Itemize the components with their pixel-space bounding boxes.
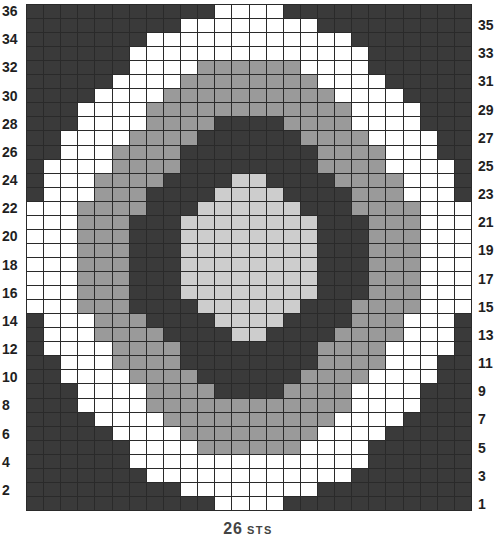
- stitch-cell: [130, 427, 146, 440]
- stitch-cell: [335, 244, 351, 257]
- stitch-cell: [352, 5, 368, 18]
- stitch-cell: [250, 19, 266, 32]
- stitch-cell: [78, 483, 94, 496]
- stitch-cell: [113, 455, 129, 468]
- stitch-cell: [318, 427, 334, 440]
- stitch-cell: [164, 131, 180, 144]
- row-label-6: 6: [2, 427, 24, 441]
- stitch-cell: [267, 117, 283, 130]
- stitch-cell: [78, 272, 94, 285]
- stitch-cell: [352, 356, 368, 369]
- stitch-cell: [386, 441, 402, 454]
- stitch-cell: [404, 244, 420, 257]
- stitch-cell: [250, 61, 266, 74]
- stitch-cell: [369, 413, 385, 426]
- stitch-cell: [61, 342, 77, 355]
- stitch-cell: [113, 75, 129, 88]
- stitch-cell: [44, 328, 60, 341]
- stitch-cell: [421, 427, 437, 440]
- stitch-cell: [318, 244, 334, 257]
- stitch-cell: [404, 117, 420, 130]
- stitch-cell: [44, 413, 60, 426]
- stitch-cell: [318, 469, 334, 482]
- stitch-cell: [27, 483, 43, 496]
- stitch-cell: [27, 342, 43, 355]
- stitch-cell: [455, 131, 471, 144]
- stitch-cell: [318, 314, 334, 327]
- stitch-cell: [130, 356, 146, 369]
- stitch-cell: [404, 188, 420, 201]
- stitch-cell: [147, 103, 163, 116]
- stitch-cell: [44, 272, 60, 285]
- stitch-cell: [421, 258, 437, 271]
- stitch-cell: [369, 497, 385, 510]
- stitch-cell: [267, 5, 283, 18]
- stitch-cell: [301, 356, 317, 369]
- stitch-cell: [250, 286, 266, 299]
- stitch-cell: [27, 174, 43, 187]
- stitch-cell: [181, 33, 197, 46]
- stitch-cell: [130, 174, 146, 187]
- stitch-cell: [352, 174, 368, 187]
- stitch-cell: [44, 5, 60, 18]
- stitch-cell: [164, 202, 180, 215]
- stitch-cell: [147, 286, 163, 299]
- stitch-cell: [404, 103, 420, 116]
- stitch-cell: [301, 216, 317, 229]
- stitch-cell: [61, 33, 77, 46]
- stitch-cell: [198, 356, 214, 369]
- stitch-cell: [369, 188, 385, 201]
- stitch-cell: [95, 103, 111, 116]
- stitch-cell: [130, 441, 146, 454]
- stitch-cell: [438, 258, 454, 271]
- stitch-cell: [284, 117, 300, 130]
- stitch-cell: [369, 427, 385, 440]
- stitch-cell: [438, 103, 454, 116]
- stitch-cell: [438, 413, 454, 426]
- stitch-cell: [404, 131, 420, 144]
- stitch-cell: [386, 33, 402, 46]
- stitch-cell: [335, 61, 351, 74]
- stitch-cell: [27, 75, 43, 88]
- stitch-cell: [61, 244, 77, 257]
- stitch-cell: [250, 75, 266, 88]
- stitch-cell: [284, 483, 300, 496]
- stitch-cell: [250, 230, 266, 243]
- stitch-cell: [147, 131, 163, 144]
- stitch-cell: [386, 61, 402, 74]
- stitch-cell: [27, 328, 43, 341]
- stitch-cell: [284, 174, 300, 187]
- stitch-cell: [318, 61, 334, 74]
- stitch-cell: [113, 497, 129, 510]
- row-label-17: 17: [478, 272, 500, 286]
- stitch-cell: [421, 5, 437, 18]
- stitch-cell: [386, 328, 402, 341]
- stitch-cell: [113, 174, 129, 187]
- stitch-cell: [335, 89, 351, 102]
- stitch-cell: [215, 356, 231, 369]
- stitch-cell: [61, 300, 77, 313]
- stitch-cell: [164, 384, 180, 397]
- stitch-cell: [27, 427, 43, 440]
- stitch-cell: [113, 89, 129, 102]
- stitch-cell: [61, 5, 77, 18]
- stitch-cell: [95, 230, 111, 243]
- stitch-cell: [301, 272, 317, 285]
- stitch-cell: [421, 314, 437, 327]
- stitch-cell: [284, 146, 300, 159]
- stitch-cell: [438, 61, 454, 74]
- stitch-cell: [95, 328, 111, 341]
- stitch-cell: [198, 230, 214, 243]
- stitch-cell: [164, 89, 180, 102]
- stitch-cell: [284, 5, 300, 18]
- stitch-cell: [61, 455, 77, 468]
- stitch-cell: [438, 300, 454, 313]
- stitch-cell: [61, 117, 77, 130]
- stitch-cell: [113, 258, 129, 271]
- stitch-cell: [352, 117, 368, 130]
- stitch-cell: [404, 286, 420, 299]
- stitch-cell: [301, 202, 317, 215]
- stitch-cell: [301, 244, 317, 257]
- stitch-cell: [27, 202, 43, 215]
- stitch-cell: [318, 202, 334, 215]
